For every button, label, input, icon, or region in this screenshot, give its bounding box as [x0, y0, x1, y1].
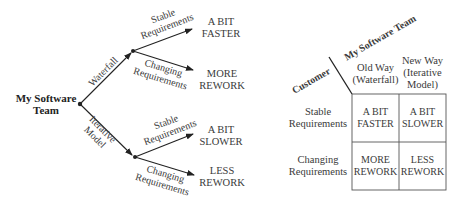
outcome-line-2: FASTER: [196, 28, 246, 40]
matrix-column-header-old-way: Old Way (Waterfall): [352, 62, 399, 86]
outcome-line-2: SLOWER: [196, 136, 246, 148]
row-header-line-2: Requirements: [286, 118, 350, 130]
matrix-row-header-changing: Changing Requirements: [286, 154, 350, 178]
matrix-row-header-stable: Stable Requirements: [286, 106, 350, 130]
row-header-line-1: Stable: [286, 106, 350, 118]
cell-line-2: SLOWER: [402, 118, 443, 130]
col-header-line-1: Old Way: [352, 62, 399, 74]
row-header-line-2: Requirements: [286, 166, 350, 178]
cell-line-1: A BIT: [357, 106, 394, 118]
cell-line-2: REWORK: [401, 166, 444, 178]
outcome-line-1: MORE: [197, 68, 247, 80]
matrix-cell-stable-new: A BIT SLOWER: [399, 94, 446, 142]
outcome-waterfall-stable: A BIT FASTER: [196, 16, 246, 40]
cell-line-1: MORE: [354, 154, 397, 166]
col-header-line-2: (Waterfall): [352, 74, 399, 86]
outcome-line-1: LESS: [197, 165, 247, 177]
col-header-line-1: New Way: [399, 55, 446, 67]
matrix-cell-changing-new: LESS REWORK: [399, 142, 446, 190]
matrix-cell-changing-old: MORE REWORK: [352, 142, 399, 190]
tree-root-label: My Software Team: [14, 92, 78, 116]
matrix-column-header-new-way: New Way (Iterative Model): [399, 55, 446, 91]
outcome-line-2: REWORK: [197, 177, 247, 189]
cell-line-2: FASTER: [357, 118, 394, 130]
cell-line-1: A BIT: [402, 106, 443, 118]
cell-line-2: REWORK: [354, 166, 397, 178]
col-header-line-2: (Iterative: [399, 67, 446, 79]
root-line-2: Team: [14, 104, 78, 116]
root-line-1: My Software: [14, 92, 78, 104]
outcome-line-2: REWORK: [197, 80, 247, 92]
row-header-line-1: Changing: [286, 154, 350, 166]
outcome-iterative-stable: A BIT SLOWER: [196, 124, 246, 148]
col-header-line-3: Model): [399, 79, 446, 91]
cell-line-1: LESS: [401, 154, 444, 166]
outcome-waterfall-changing: MORE REWORK: [197, 68, 247, 92]
outcome-line-1: A BIT: [196, 16, 246, 28]
matrix-cell-stable-old: A BIT FASTER: [352, 94, 399, 142]
outcome-line-1: A BIT: [196, 124, 246, 136]
outcome-iterative-changing: LESS REWORK: [197, 165, 247, 189]
root-node: [78, 102, 82, 106]
